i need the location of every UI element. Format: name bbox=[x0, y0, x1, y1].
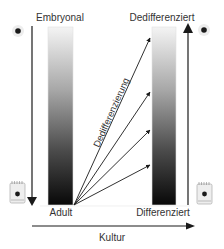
cell-nucleus-icon bbox=[12, 25, 24, 37]
differenziert-label: Differenziert bbox=[136, 208, 190, 218]
adult-label: Adult bbox=[50, 208, 73, 218]
culture-arrow bbox=[32, 223, 195, 230]
left-gradient-bar bbox=[48, 27, 73, 205]
right-up-arrow bbox=[183, 23, 193, 205]
right-gradient-bar bbox=[152, 27, 176, 205]
dedifferentiation-label: Dedifferenzierung bbox=[91, 76, 131, 149]
kultur-label: Kultur bbox=[99, 233, 125, 243]
culture-dish-icon bbox=[10, 181, 25, 203]
dedifferenziert-label: Dedifferenziert bbox=[130, 13, 195, 23]
dedifferentiation-diagram: Dedifferenzierung Embryonal Dedifferenzi… bbox=[0, 0, 224, 249]
diagram-graphics: Dedifferenzierung bbox=[0, 0, 224, 249]
cell-nucleus-icon bbox=[198, 24, 210, 36]
culture-dish-icon bbox=[197, 182, 212, 204]
left-down-arrow bbox=[27, 26, 37, 206]
embryonal-label: Embryonal bbox=[36, 13, 84, 23]
